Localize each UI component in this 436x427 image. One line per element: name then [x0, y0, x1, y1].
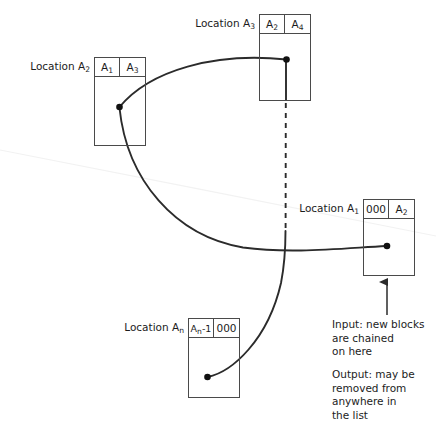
location-label-a3-subscript: 3	[250, 22, 255, 31]
memory-block-a1-cell-right-text: A	[395, 203, 402, 215]
location-label-a1: Location A1	[283, 199, 359, 219]
location-label-a3-text: Location A	[195, 17, 250, 29]
memory-block-a2: A1 A3	[94, 57, 146, 146]
memory-block-a3-header: A2 A4	[260, 15, 310, 34]
note-output: Output: may be removed from anywhere in …	[332, 368, 436, 422]
memory-block-an-cell-right-text: 000	[216, 322, 236, 334]
memory-block-a3-cell-left-subscript: 2	[273, 23, 278, 32]
memory-block-an-cell-left: An-1	[189, 319, 214, 338]
location-label-a1-text: Location A	[299, 202, 354, 214]
location-label-an-subscript: n	[179, 326, 184, 335]
memory-block-a2-header: A1 A3	[95, 58, 145, 77]
location-label-a2-text: Location A	[30, 60, 85, 72]
memory-block-an-cell-right: 000	[214, 319, 239, 338]
diagram-canvas: Location A2 A1 A3 Location A3 A2 A4 Loca…	[0, 0, 436, 427]
memory-block-a1-cell-right: A2	[389, 200, 414, 219]
memory-block-a2-cell-left-subscript: 1	[108, 66, 113, 75]
memory-block-a3-cell-left: A2	[260, 15, 285, 34]
memory-block-a3-cell-right-subscript: 4	[299, 23, 304, 32]
memory-block-a1-header: 000 A2	[364, 200, 414, 219]
memory-block-a1-cell-left-text: 000	[366, 203, 386, 215]
memory-block-a2-cell-right: A3	[120, 58, 145, 77]
location-label-a2: Location A2	[14, 57, 90, 77]
memory-block-a3-cell-right: A4	[285, 15, 310, 34]
memory-block-an: An-1 000	[188, 318, 240, 398]
location-label-a3: Location A3	[179, 14, 255, 34]
memory-block-a1: 000 A2	[363, 199, 415, 276]
location-label-a1-subscript: 1	[354, 207, 359, 216]
location-label-an: Location An	[108, 318, 184, 338]
memory-block-a3-cell-right-text: A	[291, 18, 298, 30]
memory-block-an-header: An-1 000	[189, 319, 239, 338]
location-label-a2-subscript: 2	[85, 65, 90, 74]
memory-block-a3: A2 A4	[259, 14, 311, 101]
memory-block-a2-cell-right-text: A	[126, 61, 133, 73]
memory-block-a2-cell-left: A1	[95, 58, 120, 77]
memory-block-an-cell-left-subscript: n	[197, 327, 202, 336]
pointer-a2-to-a1	[120, 108, 387, 251]
note-input: Input: new blocks are chained on here	[332, 318, 436, 359]
location-label-an-text: Location A	[124, 321, 179, 333]
memory-block-an-cell-left-tail: -1	[202, 323, 211, 334]
memory-block-a1-cell-left: 000	[364, 200, 389, 219]
memory-block-a2-cell-right-subscript: 3	[134, 66, 139, 75]
memory-block-a1-cell-right-subscript: 2	[403, 208, 408, 217]
